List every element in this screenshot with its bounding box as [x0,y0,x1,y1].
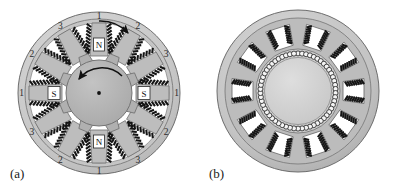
phase-number-label: 3 [135,155,140,165]
panel-a-diagram: 123123123123 N S N S [0,0,199,192]
phase-number-label: 3 [58,21,63,31]
rotor-conductor-bar [291,51,296,56]
phase-number-label: 1 [97,11,102,21]
pole-marker-north-bottom: N [94,135,105,148]
rotor-core-b [265,58,332,125]
phase-number-label: 3 [164,49,169,59]
pole-label-s-right: S [141,89,146,99]
panel-b-diagram: (b) [199,0,398,192]
phase-number-label: 2 [164,127,169,137]
rotor-shaft-center-dot [97,91,101,95]
figure-root: 123123123123 N S N S [0,0,398,192]
pole-label-s-left: S [51,89,56,99]
panel-b-wound-rotor-motor: (b) [199,0,398,192]
phase-number-label: 2 [58,155,63,165]
phase-number-label: 1 [97,166,102,176]
pole-marker-south-right: S [138,87,150,100]
caption-b: (b) [209,166,224,181]
pole-marker-north-top: N [94,38,105,51]
pole-label-n-top: N [96,40,103,50]
pole-label-n-bottom: N [96,137,103,147]
panel-a-switched-reluctance-motor: 123123123123 N S N S [0,0,199,192]
phase-number-label: 1 [174,88,179,98]
phase-number-label: 3 [30,127,35,137]
rotor-assembly-b [256,49,340,133]
phase-number-label: 2 [135,21,140,31]
phase-number-label: 1 [19,88,24,98]
caption-a: (a) [10,166,24,181]
phase-number-label: 2 [30,49,35,59]
pole-marker-south-left: S [48,87,60,100]
